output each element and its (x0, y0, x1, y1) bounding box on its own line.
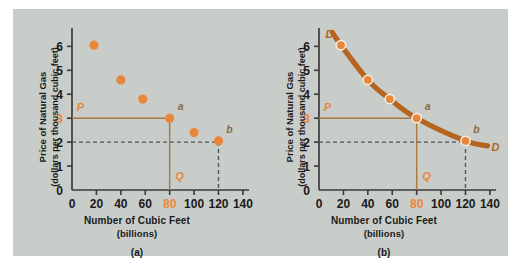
panel-a-y-tick-label-3: 3 (56, 112, 63, 126)
panel-a-y-tick-label-6: 6 (56, 40, 63, 54)
panel-a-y-tick-label-1: 1 (56, 160, 63, 174)
panel-b-y-tick-label-3: 3 (303, 112, 310, 126)
panel-b-price-label: P (324, 101, 332, 113)
panel-a-y-tick-label-2: 2 (56, 136, 63, 150)
panel-b-x-tick-label-140: 140 (480, 197, 500, 211)
panel-b-data-point-4[interactable] (462, 137, 470, 145)
panel-b-point-label-b: b (473, 123, 480, 135)
panel-a-plot: 0123456020406080100120140abPQ (13, 9, 261, 214)
panel-b-x-axis-units: (billions) (260, 228, 508, 239)
panel-b: Price of Natural Gas (dollars per thousa… (260, 9, 508, 256)
panel-b-y-tick-label-1: 1 (303, 160, 310, 174)
panel-a-x-tick-label-120: 120 (208, 197, 228, 211)
panel-b-x-axis-label: Number of Cubic Feet (260, 215, 508, 226)
panel-a-quantity-label: Q (175, 170, 184, 182)
panel-b-curve-label-bottom: D (491, 141, 499, 153)
panel-a-caption: (a) (13, 247, 261, 258)
panel-a-y-tick-label-5: 5 (56, 64, 63, 78)
panel-a-y-tick-label-0: 0 (56, 184, 63, 198)
panel-b-x-tick-label-20: 20 (337, 197, 351, 211)
panel-a-x-tick-label-100: 100 (184, 197, 204, 211)
panel-a-data-point-2[interactable] (138, 94, 147, 103)
panel-a-x-tick-label-140: 140 (233, 197, 253, 211)
panel-a-data-point-3[interactable] (165, 114, 174, 123)
panel-b-data-point-2[interactable] (386, 95, 394, 103)
panel-a-data-point-0[interactable] (89, 41, 98, 50)
panel-b-x-tick-label-40: 40 (361, 197, 375, 211)
panel-a-y-tick-label-4: 4 (56, 88, 63, 102)
panel-b-y-tick-label-4: 4 (303, 88, 310, 102)
panel-b-x-tick-label-0: 0 (316, 197, 323, 211)
panel-b-caption: (b) (260, 247, 508, 258)
panel-a-point-label-b: b (226, 123, 233, 135)
panel-b-data-point-0[interactable] (337, 41, 345, 49)
panel-b-x-tick-label-60: 60 (386, 197, 400, 211)
panel-b-x-tick-label-100: 100 (431, 197, 451, 211)
panel-a-price-label: P (77, 101, 85, 113)
panel-b-y-tick-label-5: 5 (303, 64, 310, 78)
panel-a-x-axis-units: (billions) (13, 228, 261, 239)
panel-a-x-tick-label-40: 40 (114, 197, 128, 211)
panel-a-data-point-4[interactable] (189, 128, 198, 137)
panel-a-data-point-1[interactable] (116, 75, 125, 84)
panel-a-x-axis-label: Number of Cubic Feet (13, 215, 261, 226)
panel-a-point-label-a: a (178, 100, 184, 112)
panel-b-x-tick-label-80: 80 (410, 197, 424, 211)
panel-a: Price of Natural Gas (dollars per thousa… (13, 9, 261, 256)
panel-b-plot: 0123456020406080100120140DDabPQ (260, 9, 508, 214)
panel-b-demand-curve (332, 33, 487, 146)
panel-b-data-point-3[interactable] (413, 114, 421, 122)
panel-a-data-point-5[interactable] (214, 136, 223, 145)
panel-a-x-tick-label-20: 20 (90, 197, 104, 211)
panel-b-point-label-a: a (425, 100, 431, 112)
panel-a-x-tick-label-60: 60 (139, 197, 153, 211)
panel-b-x-tick-label-120: 120 (455, 197, 475, 211)
panel-a-x-tick-label-80: 80 (163, 197, 177, 211)
panel-a-x-tick-label-0: 0 (69, 197, 76, 211)
panel-b-data-point-1[interactable] (364, 76, 372, 84)
figure-root: Price of Natural Gas (dollars per thousa… (0, 0, 512, 270)
panel-b-y-tick-label-6: 6 (303, 40, 310, 54)
panel-b-quantity-label: Q (422, 170, 431, 182)
panel-b-curve-label-top: D (325, 28, 333, 40)
panel-b-y-tick-label-0: 0 (303, 184, 310, 198)
panel-b-y-tick-label-2: 2 (303, 136, 310, 150)
